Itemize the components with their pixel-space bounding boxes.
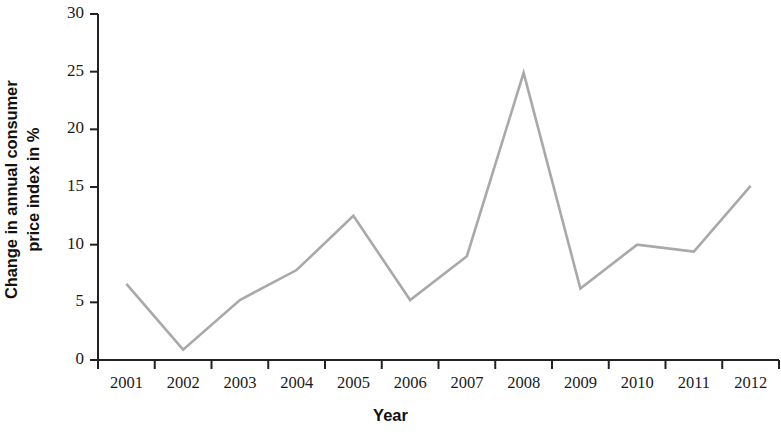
data-series [126,73,750,350]
y-axis-tick-label: 0 [44,349,84,369]
x-axis-tick-label: 2007 [435,373,499,393]
x-axis-tick-label: 2003 [208,373,272,393]
x-axis-tick-label: 2006 [378,373,442,393]
y-axis-tick-label: 10 [44,234,84,254]
line-chart: Change in annual consumer price index in… [0,0,781,435]
x-axis-tick-label: 2011 [662,373,726,393]
x-axis-tick-label: 2008 [492,373,556,393]
y-axis-tick-label: 30 [44,3,84,23]
y-axis-tick-label: 25 [44,61,84,81]
y-axis-tick-label: 5 [44,291,84,311]
x-axis-tick-label: 2002 [151,373,215,393]
x-axis-tick-label: 2004 [265,373,329,393]
plot-area [0,0,781,435]
axes [98,14,779,360]
y-axis-tick-label: 15 [44,176,84,196]
x-axis-tick-label: 2010 [605,373,669,393]
x-axis-tick-label: 2001 [94,373,158,393]
y-axis-tick-label: 20 [44,118,84,138]
series-line-cpi [126,73,750,350]
x-axis-title: Year [0,406,781,425]
x-axis-tick-label: 2009 [548,373,612,393]
y-axis-ticks [90,14,98,360]
x-axis-tick-label: 2012 [719,373,781,393]
x-axis-ticks [98,360,779,369]
x-axis-tick-label: 2005 [321,373,385,393]
